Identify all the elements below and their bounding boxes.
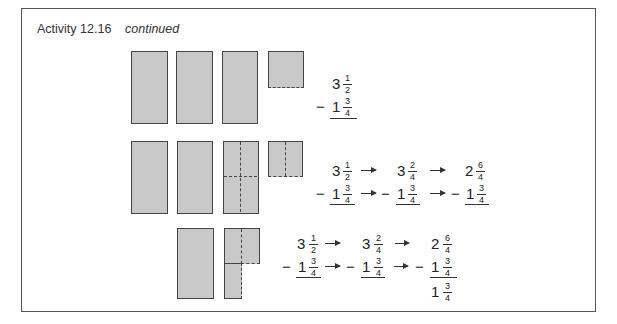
activity-label: Activity 12.16: [37, 22, 111, 36]
whole-number: 2: [431, 236, 439, 251]
fraction: 24: [374, 234, 383, 255]
continued-label: continued: [125, 22, 179, 36]
fraction: 34: [343, 97, 352, 118]
fraction: 12: [309, 234, 318, 255]
fraction: 12: [343, 74, 352, 95]
whole-number: 3: [332, 76, 340, 91]
whole-block: [222, 51, 258, 124]
sum-line: [396, 204, 420, 205]
whole-number: 1: [298, 259, 306, 274]
quartered-block: [223, 141, 259, 214]
dashed-divider: [225, 263, 241, 264]
fraction: 34: [309, 257, 318, 278]
sum-line: [361, 277, 385, 278]
fraction: 34: [343, 184, 352, 205]
dashed-divider: [241, 263, 260, 264]
whole-number: 1: [332, 186, 340, 201]
minus-sign: −: [316, 186, 325, 201]
whole-number: 3: [332, 163, 340, 178]
activity-heading: Activity 12.16 continued: [37, 22, 111, 36]
dashed-divider: [224, 176, 257, 177]
sum-line: [296, 277, 321, 278]
whole-number: 1: [466, 186, 474, 201]
sum-line: [330, 204, 355, 205]
fraction: 34: [374, 257, 383, 278]
remaining-quarters-block: [224, 228, 260, 264]
whole-number: 2: [465, 163, 473, 178]
fraction: 34: [408, 184, 417, 205]
whole-number: 1: [431, 259, 439, 274]
remaining-quarter-block: [224, 263, 242, 299]
whole-number: 1: [332, 99, 340, 114]
minus-sign: −: [415, 259, 424, 274]
arrow-icon: [361, 170, 376, 171]
half-block: [268, 51, 304, 88]
result-whole-number: 1: [431, 284, 439, 299]
arrow-icon: [430, 170, 445, 171]
minus-sign: −: [451, 186, 460, 201]
fraction: 12: [343, 161, 352, 182]
arrow-icon: [394, 266, 408, 267]
whole-block: [176, 51, 213, 124]
minus-sign: −: [282, 259, 291, 274]
dashed-divider: [241, 229, 242, 264]
whole-number: 3: [397, 163, 405, 178]
fraction: 34: [477, 184, 486, 205]
whole-block: [177, 228, 214, 299]
sum-line: [330, 118, 357, 119]
minus-sign: −: [316, 99, 325, 114]
fraction: 34: [443, 257, 452, 278]
half-block: [268, 141, 303, 177]
sum-line: [465, 204, 489, 205]
result-fraction: 34: [443, 282, 452, 303]
sum-line: [430, 277, 457, 278]
arrow-icon: [430, 193, 445, 194]
dashed-divider: [240, 142, 241, 212]
whole-block: [131, 51, 168, 124]
arrow-icon: [361, 193, 376, 194]
whole-block: [177, 141, 213, 214]
dashed-divider: [285, 142, 286, 176]
fraction: 64: [443, 234, 452, 255]
whole-block: [131, 141, 168, 214]
fraction: 24: [408, 161, 417, 182]
whole-number: 1: [362, 259, 370, 274]
whole-number: 1: [397, 186, 405, 201]
whole-number: 3: [362, 236, 370, 251]
whole-number: 3: [297, 236, 305, 251]
arrow-icon: [325, 243, 340, 244]
arrow-icon: [325, 266, 340, 267]
arrow-icon: [395, 243, 409, 244]
minus-sign: −: [346, 259, 355, 274]
minus-sign: −: [381, 186, 390, 201]
fraction: 64: [476, 161, 485, 182]
